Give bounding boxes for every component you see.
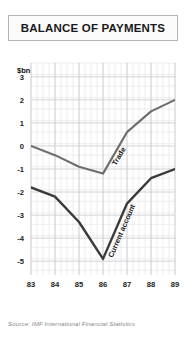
x-axis-ticks: 83848586878889 [27,280,179,289]
line-chart-svg: 3210-1-2-3-4-5 $bn 83848586878889 Trade … [0,55,186,310]
y-axis-tick-label: -3 [17,211,24,220]
y-axis-tick-label: -1 [17,165,25,174]
page-title: BALANCE OF PAYMENTS [21,22,165,34]
x-axis-tick-label: 89 [171,280,179,289]
x-axis-tick-label: 86 [99,280,107,289]
balance-of-payments-figure: BALANCE OF PAYMENTS 3210-1-2-3-4-5 $bn 8… [0,0,186,340]
source-publication: International Financial Statistics [45,320,135,327]
y-axis-ticks: 3210-1-2-3-4-5 [17,73,25,266]
y-axis-tick-label: 0 [20,142,24,151]
y-axis-tick-label: -4 [17,234,25,243]
x-axis-tick-label: 88 [147,280,155,289]
chart-title-box: BALANCE OF PAYMENTS [8,15,178,41]
x-axis-tick-label: 85 [75,280,84,289]
y-axis-tick-label: 1 [20,119,25,128]
source-note: Source: IMF International Financial Stat… [8,320,184,327]
x-axis-tick-label: 87 [123,280,131,289]
chart-plot-area: 3210-1-2-3-4-5 $bn 83848586878889 Trade … [0,55,186,310]
x-axis-tick-label: 84 [51,280,60,289]
y-axis-tick-label: -5 [17,257,25,266]
y-axis-unit-label: $bn [17,66,31,75]
source-organisation: IMF [32,320,43,327]
y-axis-tick-label: -2 [17,188,24,197]
x-axis-tick-label: 83 [27,280,35,289]
y-axis-tick-label: 2 [20,96,24,105]
source-prefix: Source: [8,320,30,327]
